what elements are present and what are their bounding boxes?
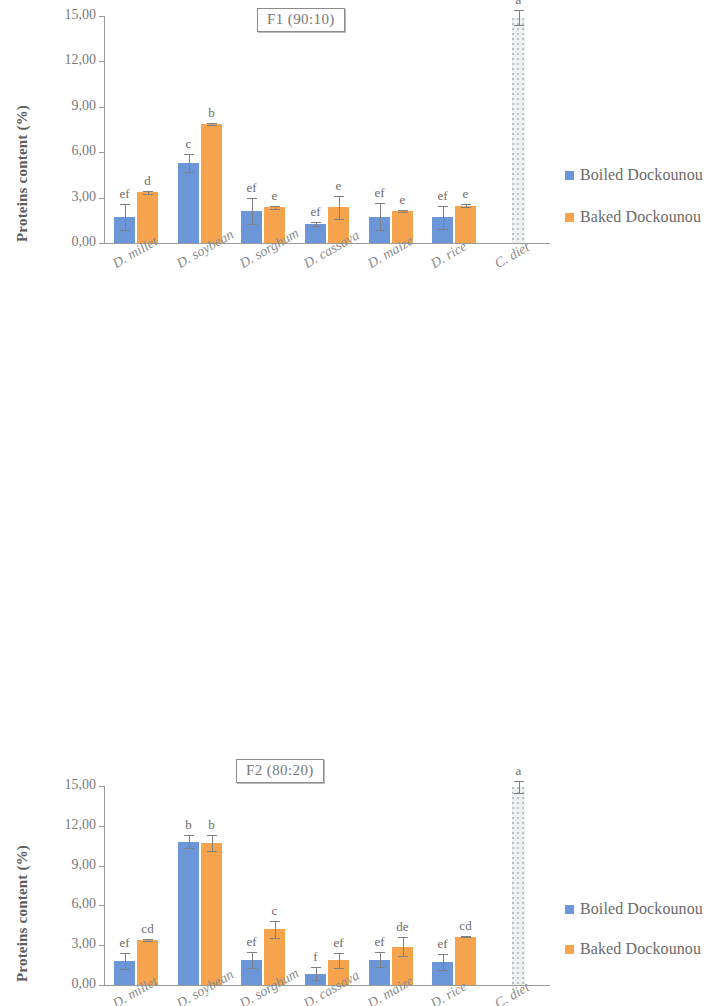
y-axis-tick-label: 0,00 [42, 234, 96, 250]
significance-letter: e [383, 193, 423, 206]
legend-swatch-boiled [565, 171, 574, 180]
error-bar-cap [311, 222, 321, 223]
y-axis-tick [99, 152, 104, 153]
error-bar-cap [514, 10, 524, 11]
bar-control [512, 18, 525, 243]
error-bar [519, 10, 520, 25]
error-bar-cap [375, 230, 385, 231]
error-bar [252, 198, 253, 224]
legend-item-boiled[interactable]: Boiled Dockounou [565, 166, 703, 184]
y-axis-label: Proteins content (%) [14, 105, 31, 242]
bar-baked [455, 206, 476, 243]
error-bar-cap [311, 226, 321, 227]
error-bar-cap [398, 212, 408, 213]
bar-baked [201, 124, 222, 243]
y-axis-tick-label: 9,00 [42, 98, 96, 114]
y-axis-line [104, 16, 105, 243]
chart-panel-f3: F3 (75:25)Proteins content (%)0,003,006,… [0, 740, 725, 1006]
error-bar-cap [270, 206, 280, 207]
chart-panel-f1: F1 (90:10)Proteins content (%)0,003,006,… [0, 0, 725, 340]
significance-letter: e [319, 179, 359, 192]
error-bar-cap [514, 25, 524, 26]
error-bar-cap [247, 224, 257, 225]
error-bar-cap [120, 204, 130, 205]
legend-swatch-baked [565, 213, 574, 222]
error-bar-cap [461, 207, 471, 208]
error-bar-cap [334, 219, 344, 220]
chart-panel-f2: F2 (80:20)Proteins content (%)0,003,006,… [0, 370, 725, 710]
error-bar [380, 203, 381, 230]
y-axis-tick-label: 6,00 [42, 143, 96, 159]
legend-item-baked[interactable]: Baked Dockounou [565, 208, 701, 226]
bar-boiled [178, 163, 199, 243]
error-bar [125, 204, 126, 230]
y-axis-tick [99, 243, 104, 244]
error-bar-cap [184, 172, 194, 173]
legend-label-boiled: Boiled Dockounou [580, 166, 703, 184]
significance-letter: d [128, 174, 168, 187]
error-bar-cap [120, 230, 130, 231]
y-axis-tick-label: 3,00 [42, 189, 96, 205]
error-bar-cap [207, 125, 217, 126]
y-axis-tick-label: 15,00 [42, 7, 96, 23]
error-bar [189, 154, 190, 172]
significance-letter: e [446, 187, 486, 200]
error-bar-cap [438, 206, 448, 207]
error-bar-cap [270, 209, 280, 210]
error-bar-cap [143, 194, 153, 195]
category-label: C. diet [492, 239, 532, 272]
error-bar-cap [461, 204, 471, 205]
error-bar-cap [184, 154, 194, 155]
error-bar [339, 196, 340, 219]
y-axis-tick [99, 107, 104, 108]
error-bar [443, 206, 444, 229]
significance-letter: e [255, 189, 295, 202]
error-bar-cap [143, 191, 153, 192]
y-axis-tick [99, 16, 104, 17]
significance-letter: a [499, 0, 539, 6]
significance-letter: b [192, 106, 232, 119]
y-axis-tick [99, 198, 104, 199]
error-bar-cap [334, 196, 344, 197]
y-axis-tick [99, 61, 104, 62]
error-bar-cap [438, 229, 448, 230]
legend-label-baked: Baked Dockounou [580, 208, 701, 226]
y-axis-tick-label: 12,00 [42, 52, 96, 68]
